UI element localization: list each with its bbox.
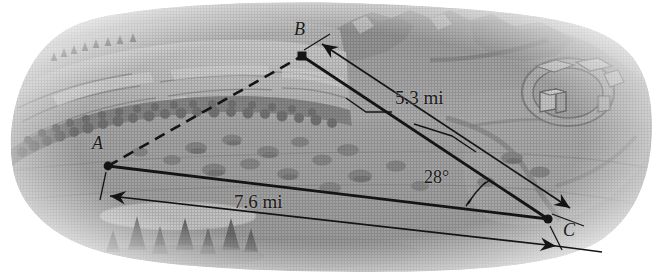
vertex-dot-a	[104, 162, 113, 171]
figure-canvas: A B C 5.3 mi 7.6 mi 28°	[0, 0, 660, 274]
dimension-label-bc: 5.3 mi	[395, 88, 444, 107]
vertex-label-b: B	[294, 20, 305, 38]
angle-label-c: 28°	[424, 168, 449, 186]
vertex-dot-c	[543, 214, 552, 223]
dimension-label-ac: 7.6 mi	[234, 192, 283, 211]
vertex-label-c: C	[563, 221, 575, 239]
vertex-dot-b	[298, 52, 307, 61]
vertex-label-a: A	[92, 134, 103, 152]
